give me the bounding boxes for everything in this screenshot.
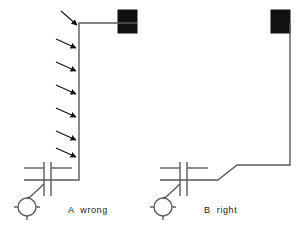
panel-b-device-block [271, 10, 290, 33]
panel-a-arrow-2 [56, 62, 76, 71]
panel-b-cable-route [160, 23, 290, 180]
panel-a-arrow-6 [56, 148, 76, 157]
panel-a-disconnect-switch [24, 162, 72, 196]
panel-a-arrow-4 [56, 108, 76, 117]
panel-b-switch-blade [166, 184, 180, 197]
panel-a-caption: A wrong [68, 205, 108, 215]
panel-a-cable-route [24, 23, 137, 180]
panel-a-device-block [118, 10, 137, 33]
schematic-canvas [0, 0, 303, 244]
panel-a-group [14, 10, 137, 220]
panel-a-machine-circle [14, 197, 40, 220]
schematic-figure: A wrong B right [0, 0, 303, 244]
panel-b-disconnect-switch [160, 162, 208, 196]
panel-a-arrow-3 [56, 85, 76, 94]
panel-a-arrow-1 [56, 39, 76, 48]
panel-a-arrow-top [61, 11, 77, 25]
panel-a-arrow-5 [56, 131, 76, 140]
panel-b-caption: B right [204, 205, 237, 215]
panel-b-machine-circle [150, 197, 176, 220]
panel-a-switch-blade [30, 184, 44, 197]
panel-b-group [150, 10, 290, 220]
